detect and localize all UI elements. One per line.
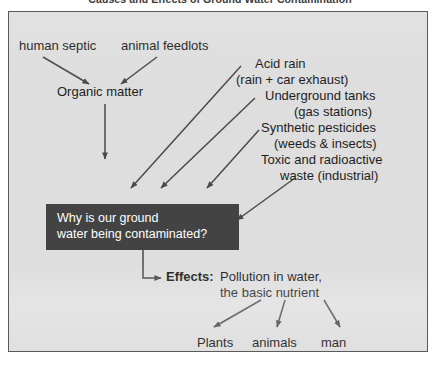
arrow-human-septic-to-organic [43, 57, 89, 84]
effects-description: Pollution in water, the basic nutrient [220, 269, 322, 300]
central-question-box: Why is our ground water being contaminat… [46, 204, 239, 250]
arrow-toxic-waste-to-question [237, 178, 295, 220]
node-man: man [321, 335, 346, 351]
arrow-animal-feedlots-to-organic [121, 57, 157, 84]
node-synthetic-pesticides-detail: (weeds & insects) [274, 136, 377, 152]
node-toxic-radioactive-detail: waste (industrial) [280, 168, 378, 184]
node-acid-rain-detail: (rain + car exhaust) [236, 72, 348, 88]
node-synthetic-pesticides: Synthetic pesticides [261, 120, 376, 136]
central-question-text: Why is our ground water being contaminat… [57, 210, 239, 242]
arrow-effects-to-man [324, 300, 340, 327]
node-human-septic: human septic [19, 38, 96, 54]
node-plants: Plants [197, 335, 233, 351]
node-acid-rain: Acid rain [255, 56, 306, 72]
page-title: Causes and Effects of Ground Water Conta… [0, 0, 440, 5]
diagram-panel: human septic animal feedlots Organic mat… [8, 11, 428, 352]
node-toxic-radioactive: Toxic and radioactive [261, 152, 382, 168]
node-underground-tanks-detail: (gas stations) [294, 104, 372, 120]
effects-label: Effects: [166, 269, 214, 285]
arrow-question-to-effects [143, 250, 161, 278]
arrow-tanks-to-question [161, 98, 255, 188]
arrow-effects-to-animals [277, 300, 285, 327]
arrow-pesticides-to-question [207, 130, 259, 188]
node-organic-matter: Organic matter [57, 84, 143, 100]
node-animals: animals [252, 335, 297, 351]
node-underground-tanks: Underground tanks [265, 88, 376, 104]
arrow-effects-to-plants [214, 300, 261, 327]
node-animal-feedlots: animal feedlots [121, 38, 208, 54]
